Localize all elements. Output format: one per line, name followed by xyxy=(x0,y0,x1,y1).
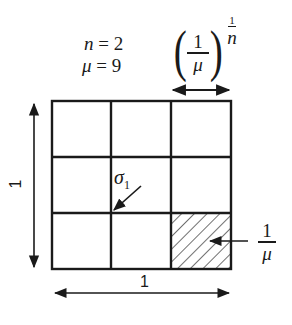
fraction-numerator: 1 xyxy=(193,32,203,52)
sigma-label: σ1 xyxy=(114,166,130,193)
area-denominator: μ xyxy=(262,243,272,265)
param-n: n = 2 xyxy=(84,33,123,55)
mu-symbol: μ xyxy=(82,55,92,76)
param-mu: μ = 9 xyxy=(82,55,121,77)
sigma-subscript: 1 xyxy=(124,178,130,192)
close-paren: ) xyxy=(210,23,223,79)
open-paren: ( xyxy=(174,23,187,79)
side-length-label: 1 xyxy=(7,180,25,189)
sigma-symbol: σ xyxy=(114,166,124,188)
bottom-length-label: 1 xyxy=(140,273,149,291)
fraction-denominator: μ xyxy=(193,54,203,76)
n-symbol: n xyxy=(84,33,94,54)
exponent-denominator: n xyxy=(227,27,237,49)
n-value: = 2 xyxy=(94,33,124,54)
exponent-numerator: 1 xyxy=(229,15,235,26)
mu-value: = 9 xyxy=(92,55,122,76)
area-fraction: 1 μ xyxy=(256,221,278,265)
area-numerator: 1 xyxy=(262,221,272,241)
exponent-fraction: 1 n xyxy=(227,15,237,49)
cell-width-fraction: 1 μ xyxy=(186,32,210,76)
